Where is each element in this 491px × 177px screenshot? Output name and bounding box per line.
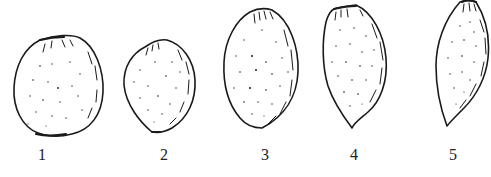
seed-label-3: 3: [261, 146, 269, 164]
seed-label-4: 4: [350, 146, 358, 164]
seed-shape-3: [224, 9, 298, 128]
seed-shape-4: [323, 5, 386, 128]
seed-label-2: 2: [160, 146, 168, 164]
seed-shape-1: [14, 36, 103, 137]
seed-label-5: 5: [449, 146, 457, 164]
seed-label-1: 1: [38, 146, 46, 164]
seed-shapes-figure: [0, 0, 491, 177]
seed-shape-2: [124, 40, 195, 133]
seed-shape-5: [436, 1, 489, 127]
